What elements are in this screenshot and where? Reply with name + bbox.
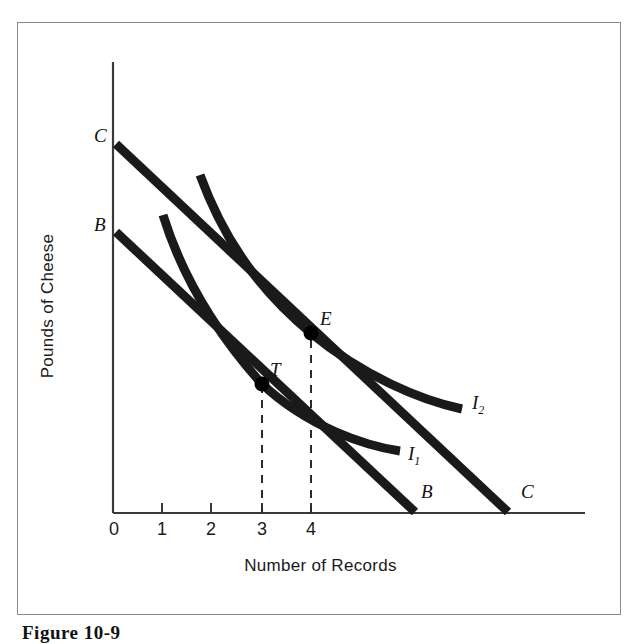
label-budget-c-end: C (521, 481, 534, 503)
label-curve-i1-subscript: 1 (414, 454, 420, 468)
label-point-e: E (320, 308, 332, 330)
label-budget-b-end: B (421, 481, 433, 503)
x-tick-label-0: 0 (104, 519, 124, 540)
label-budget-c-intercept: C (94, 125, 107, 147)
point-marker-t (255, 377, 270, 392)
label-budget-b-intercept: B (94, 214, 106, 236)
x-axis-title: Number of Records (0, 556, 641, 576)
point-marker-e (304, 326, 319, 341)
x-axis-ticks (162, 503, 311, 513)
indifference-curve-i2 (200, 175, 462, 409)
figure-caption: Figure 10-9 (22, 622, 121, 644)
y-axis-title: Pounds of Cheese (38, 196, 58, 416)
label-curve-i2-subscript: 2 (478, 403, 484, 417)
x-tick-label-3: 3 (252, 519, 272, 540)
label-point-t: T (270, 359, 281, 381)
indifference-curve-i1 (163, 215, 400, 451)
x-tick-label-4: 4 (301, 519, 321, 540)
x-tick-label-1: 1 (152, 519, 172, 540)
label-curve-i2: I2 (472, 392, 484, 418)
label-curve-i1: I1 (408, 443, 420, 469)
x-tick-label-2: 2 (201, 519, 221, 540)
